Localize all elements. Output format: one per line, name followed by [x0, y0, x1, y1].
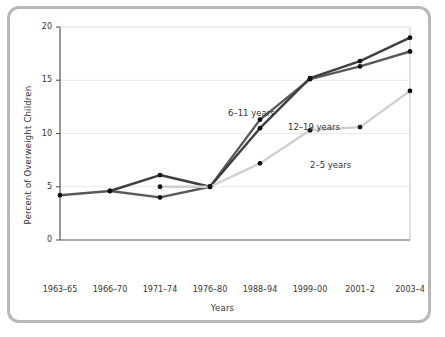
data-point: [208, 184, 213, 189]
x-tick-label: 1976–80: [182, 285, 238, 294]
y-tick-label: 15: [26, 75, 52, 84]
data-point: [408, 49, 413, 54]
data-point: [358, 125, 363, 130]
data-point: [158, 173, 163, 178]
x-tick-label: 1988–94: [232, 285, 288, 294]
y-tick-label: 0: [26, 235, 52, 244]
x-axis-title: Years: [0, 303, 445, 313]
x-tick-label: 1999–00: [282, 285, 338, 294]
line-chart: Percent of Overweight Children Years 051…: [0, 0, 445, 337]
series-annotation: 12–19 years: [288, 122, 340, 132]
x-tick-label: 2003–4: [382, 285, 438, 294]
x-tick-label: 2001–2: [332, 285, 388, 294]
series-annotation: 6–11 years: [228, 108, 275, 118]
y-tick-label: 5: [26, 182, 52, 191]
data-point: [258, 161, 263, 166]
data-point: [158, 184, 163, 189]
series-annotation: 2–5 years: [310, 160, 351, 170]
x-tick-label: 1966–70: [82, 285, 138, 294]
x-tick-label: 1971–74: [132, 285, 188, 294]
y-axis-title: Percent of Overweight Children: [23, 75, 33, 235]
data-point: [358, 64, 363, 69]
data-point: [158, 195, 163, 200]
y-tick-label: 10: [26, 129, 52, 138]
data-point: [258, 126, 263, 131]
data-point: [358, 59, 363, 64]
y-tick-label: 20: [26, 22, 52, 31]
data-point: [58, 193, 63, 198]
x-tick-label: 1963–65: [32, 285, 88, 294]
series-line-3: [160, 91, 410, 187]
data-point: [408, 89, 413, 94]
data-point: [308, 76, 313, 81]
data-point: [408, 35, 413, 40]
gridlines: [60, 27, 410, 240]
data-point: [108, 189, 113, 194]
